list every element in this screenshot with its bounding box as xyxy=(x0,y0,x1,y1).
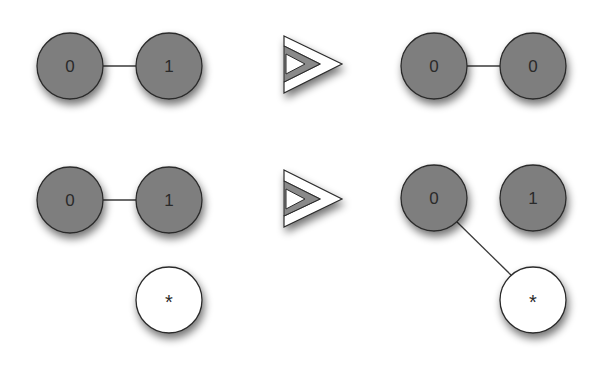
node-label: 0 xyxy=(429,189,438,208)
node-1: 1 xyxy=(136,167,202,233)
node-label: 0 xyxy=(429,57,438,76)
node-0: 0 xyxy=(37,33,103,99)
node-label: * xyxy=(529,291,537,313)
node-0: 0 xyxy=(37,167,103,233)
node-label: 1 xyxy=(528,189,537,208)
edge xyxy=(456,221,512,276)
node-label: 1 xyxy=(164,191,173,210)
double-chevron-right-icon xyxy=(284,36,342,93)
node-label: 0 xyxy=(65,191,74,210)
node-wildcard: * xyxy=(136,267,202,333)
node-1: 1 xyxy=(136,33,202,99)
node-1: 1 xyxy=(500,165,566,231)
node-label: * xyxy=(165,291,173,313)
row1-right-graph: 0 0 xyxy=(401,33,566,99)
double-chevron-right-icon xyxy=(284,170,342,227)
node-wildcard: * xyxy=(500,267,566,333)
row2-right-graph: 0 1 * xyxy=(401,165,566,333)
node-0: 0 xyxy=(401,33,467,99)
graph-rewrite-diagram: 0 1 0 0 0 1 xyxy=(0,0,603,366)
node-0: 0 xyxy=(401,165,467,231)
node-1: 0 xyxy=(500,33,566,99)
node-label: 0 xyxy=(65,57,74,76)
row1-left-graph: 0 1 xyxy=(37,33,202,99)
row2-left-graph: 0 1 * xyxy=(37,167,202,333)
node-label: 1 xyxy=(164,57,173,76)
node-label: 0 xyxy=(528,57,537,76)
